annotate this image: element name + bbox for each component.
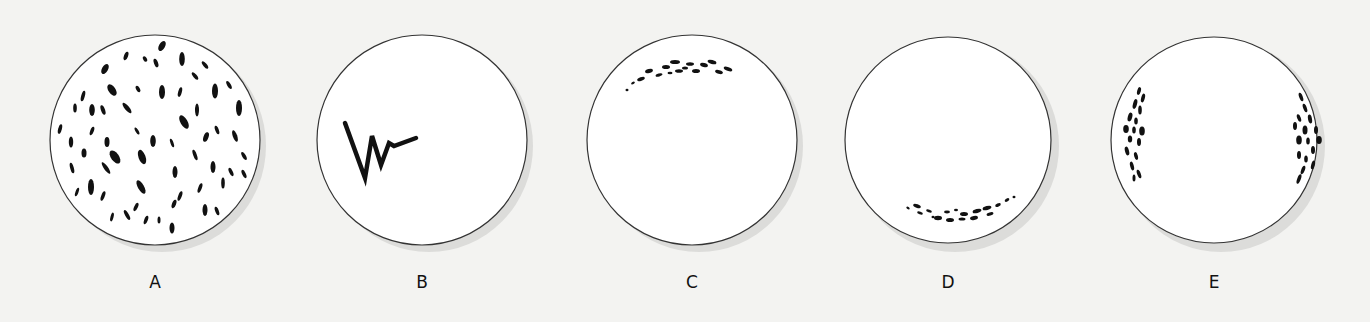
panel-a: A [0, 0, 274, 322]
panel-label-b: B [402, 272, 442, 292]
panel-e: E [1096, 0, 1370, 322]
panel-b: B [274, 0, 548, 322]
panel-label-e: E [1194, 272, 1234, 292]
panel-label-d: D [928, 272, 968, 292]
panel-label-c: C [672, 272, 712, 292]
panel-c: C [548, 0, 822, 322]
panel-label-a: A [135, 272, 175, 292]
panel-d: D [822, 0, 1096, 322]
